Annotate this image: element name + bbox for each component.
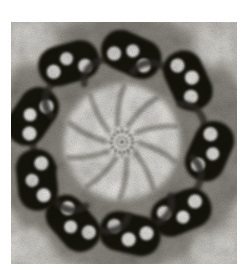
electron-micrograph	[0, 0, 242, 273]
micrograph-figure	[0, 0, 242, 273]
film-grain	[11, 22, 237, 264]
